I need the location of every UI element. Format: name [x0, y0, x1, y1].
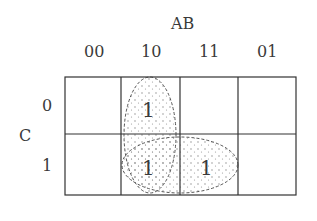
- cell-0-1: 1: [142, 102, 155, 118]
- cell-1-2: 1: [200, 160, 213, 176]
- col-header-00: 00: [84, 44, 104, 60]
- cell-1-1: 1: [142, 160, 155, 176]
- col-header-10: 10: [141, 44, 161, 60]
- row-header-1: 1: [42, 158, 52, 174]
- row-header-0: 0: [42, 98, 52, 114]
- col-header-01: 01: [257, 44, 277, 60]
- row-variable-label: C: [19, 128, 31, 144]
- col-header-11: 11: [199, 44, 219, 60]
- kmap-grid: [65, 77, 296, 195]
- col-variable-label: AB: [171, 16, 194, 32]
